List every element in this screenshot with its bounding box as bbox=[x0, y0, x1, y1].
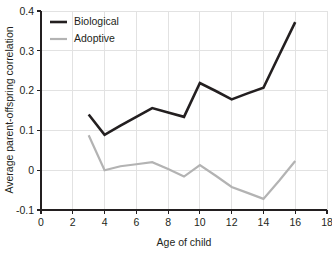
chart-page: -0.100.10.20.30.4024681012141618 Biologi… bbox=[0, 0, 332, 253]
legend-label-biological: Biological bbox=[74, 15, 119, 27]
x-tick-label: 12 bbox=[226, 216, 238, 228]
y-tick-label: -0.1 bbox=[16, 204, 34, 216]
y-tick-label: 0.2 bbox=[19, 84, 34, 96]
y-tick-label: 0 bbox=[28, 164, 34, 176]
x-tick-label: 8 bbox=[165, 216, 171, 228]
y-tick-label: 0.1 bbox=[19, 124, 34, 136]
y-tick-label: 0.4 bbox=[19, 5, 34, 17]
x-tick-label: 4 bbox=[102, 216, 108, 228]
legend-label-adoptive: Adoptive bbox=[74, 32, 115, 44]
chart-svg: -0.100.10.20.30.4024681012141618 Biologi… bbox=[0, 0, 332, 253]
x-axis-title: Age of child bbox=[157, 236, 212, 248]
line-chart: -0.100.10.20.30.4024681012141618 Biologi… bbox=[0, 0, 332, 253]
x-tick-label: 2 bbox=[70, 216, 76, 228]
x-tick-label: 16 bbox=[289, 216, 301, 228]
y-tick-label: 0.3 bbox=[19, 45, 34, 57]
x-tick-label: 14 bbox=[258, 216, 270, 228]
y-axis-title: Average parent-offspring correlation bbox=[3, 26, 15, 193]
x-tick-label: 10 bbox=[194, 216, 206, 228]
x-tick-label: 6 bbox=[133, 216, 139, 228]
x-tick-label: 0 bbox=[38, 216, 44, 228]
x-tick-label: 18 bbox=[321, 216, 332, 228]
